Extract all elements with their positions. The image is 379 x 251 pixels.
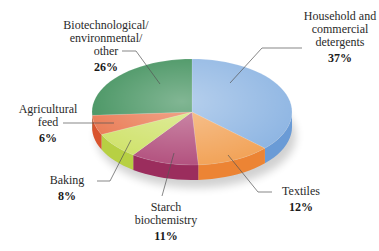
label-baking-pct: 8% [42, 190, 92, 203]
label-agricultural-pct: 6% [16, 132, 80, 145]
label-textiles-pct: 12% [270, 201, 332, 214]
label-household-pct: 37% [299, 52, 379, 65]
label-household: Household and commercial detergents 37% [299, 10, 379, 65]
label-baking: Baking 8% [42, 174, 92, 203]
label-household-line3: detergents [299, 36, 379, 49]
label-agricultural-line2: feed [16, 116, 80, 129]
label-baking-line1: Baking [42, 174, 92, 187]
label-agricultural: Agricultural feed 6% [16, 103, 80, 145]
label-starch-pct: 11% [126, 230, 206, 243]
label-starch: Starch biochemistry 11% [126, 201, 206, 243]
label-starch-line2: biochemistry [126, 214, 206, 227]
label-textiles: Textiles 12% [270, 185, 332, 214]
label-biotech: Biotechnological/ environmental/ other 2… [52, 19, 160, 74]
label-biotech-line3: other [52, 45, 160, 58]
pie-slices [92, 59, 292, 165]
label-biotech-pct: 26% [52, 61, 160, 74]
label-textiles-line1: Textiles [270, 185, 332, 198]
